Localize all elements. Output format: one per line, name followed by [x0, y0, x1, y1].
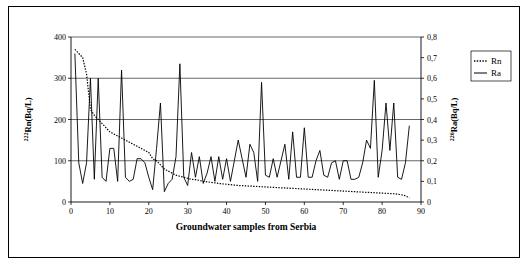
chart-canvas: 010020030040000,10,20,30,40,50,60,70,801…: [9, 7, 521, 259]
chart-frame: 010020030040000,10,20,30,40,50,60,70,801…: [8, 6, 520, 258]
x-axis-title: Groundwater samples from Serbia: [176, 222, 317, 232]
y-axis-title-right-sup: 226: [449, 132, 455, 141]
y-axis-title-left: 222Rn(Bq/L): [23, 97, 33, 141]
y-axis-title-right: 226Ra(Bq/L): [449, 98, 459, 142]
y-tick-label-right: 0,7: [427, 54, 437, 63]
y-axis-title-left-base: Rn(Bq/L): [23, 97, 33, 132]
x-tick-label: 0: [69, 207, 73, 216]
x-tick-label: 10: [106, 207, 114, 216]
x-tick-label: 40: [223, 207, 231, 216]
x-tick-label: 90: [417, 207, 425, 216]
y-tick-label-left: 200: [54, 116, 66, 125]
y-axis-title-right-text: 226Ra(Bq/L): [449, 98, 459, 142]
legend-label-rn: Rn: [491, 56, 502, 66]
x-tick-label: 60: [300, 207, 308, 216]
y-tick-label-left: 300: [54, 74, 66, 83]
y-axis-title-right-base: Ra(Bq/L): [449, 98, 459, 133]
y-tick-label-left: 0: [62, 198, 66, 207]
y-tick-label-right: 0,1: [427, 177, 437, 186]
legend-label-ra: Ra: [491, 68, 501, 78]
y-tick-label-right: 0,6: [427, 74, 437, 83]
x-tick-label: 80: [378, 207, 386, 216]
y-tick-label-right: 0,5: [427, 95, 437, 104]
x-tick-label: 30: [184, 207, 192, 216]
y-tick-label-right: 0,8: [427, 33, 437, 42]
y-axis-title-left-sup: 222: [23, 132, 29, 141]
y-tick-label-right: 0: [427, 198, 431, 207]
x-tick-label: 50: [261, 207, 269, 216]
y-axis-title-left-text: 222Rn(Bq/L): [23, 97, 33, 141]
x-tick-label: 70: [339, 207, 347, 216]
y-tick-label-right: 0,3: [427, 136, 437, 145]
x-tick-label: 20: [145, 207, 153, 216]
y-tick-label-right: 0,2: [427, 157, 437, 166]
y-tick-label-left: 100: [54, 157, 66, 166]
chart-svg: 010020030040000,10,20,30,40,50,60,70,801…: [9, 7, 521, 259]
y-tick-label-left: 400: [54, 33, 66, 42]
y-tick-label-right: 0,4: [427, 116, 437, 125]
